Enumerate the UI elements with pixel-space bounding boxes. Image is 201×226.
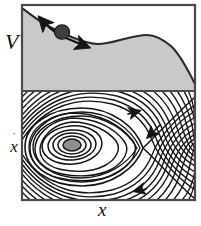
position-axis-label: x <box>98 200 106 219</box>
figure-canvas <box>0 0 201 226</box>
potential-energy-panel <box>22 5 195 91</box>
velocity-axis-base: x <box>5 139 23 154</box>
figure-container: V ˙ x x <box>0 0 201 226</box>
velocity-axis-label: ˙ x <box>5 134 23 154</box>
potential-axis-label: V <box>5 31 18 53</box>
ball <box>54 25 69 39</box>
